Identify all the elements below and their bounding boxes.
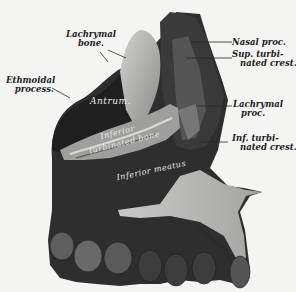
label-lachrymal-proc: Lachrymal proc. xyxy=(233,100,283,118)
label-lachrymal-bone: Lachrymal bone. xyxy=(66,30,116,48)
label-line: proc. xyxy=(233,109,283,118)
label-line: process. xyxy=(6,85,54,94)
label-line: Nasal proc. xyxy=(232,38,286,47)
label-antrum: Antrum. xyxy=(90,96,131,106)
label-inf-turbinated-crest: Inf. turbi- nated crest. xyxy=(232,134,296,152)
label-ethmoidal-process: Ethmoidal process. xyxy=(6,76,54,94)
label-sup-turbinated-crest: Sup. turbi- nated crest. xyxy=(232,50,296,68)
label-line: bone. xyxy=(66,39,116,48)
label-line: nated crest. xyxy=(232,143,296,152)
label-nasal-proc: Nasal proc. xyxy=(232,38,286,47)
label-line: nated crest. xyxy=(232,59,296,68)
